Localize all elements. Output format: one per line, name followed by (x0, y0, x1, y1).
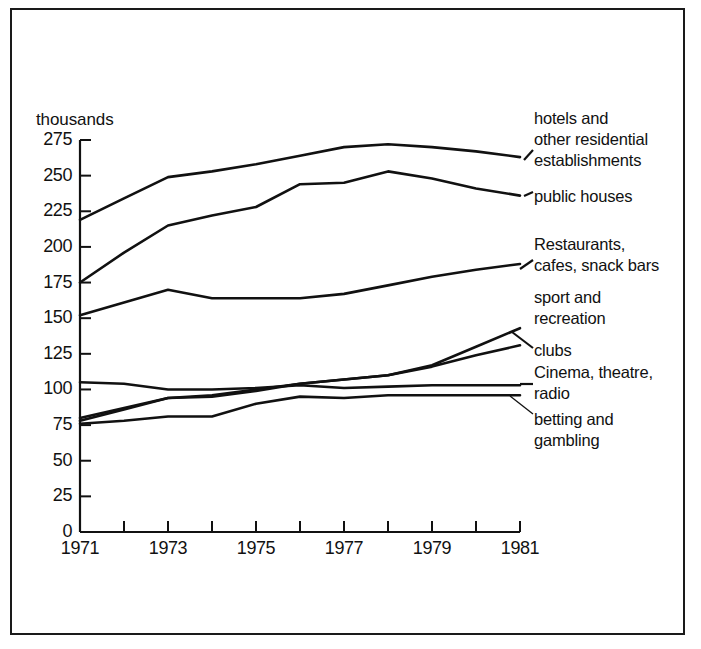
y-tick-label: 75 (24, 414, 72, 435)
chart-series-group (80, 144, 520, 423)
x-tick-label: 1979 (402, 538, 462, 559)
series-label-line: Cinema, theatre, (534, 362, 653, 383)
y-tick-label: 250 (24, 165, 72, 186)
series-line-2 (80, 264, 520, 315)
y-tick-label: 175 (24, 272, 72, 293)
chart-axes (80, 140, 520, 532)
series-label-line: other residential (534, 129, 648, 150)
series-line-0 (80, 144, 520, 220)
series-label-line: sport and (534, 287, 605, 308)
leader-line-betting (510, 396, 533, 414)
series-label-restaurants: Restaurants,cafes, snack bars (534, 234, 659, 276)
series-label-betting: betting andgambling (534, 409, 613, 451)
y-tick-label: 150 (24, 307, 72, 328)
series-label-hotels: hotels andother residentialestablishment… (534, 108, 648, 171)
x-tick-label: 1971 (50, 538, 110, 559)
series-label-line: Restaurants, (534, 234, 659, 255)
series-label-clubs: clubs (534, 340, 572, 361)
y-tick-label: 50 (24, 450, 72, 471)
x-tick-label: 1977 (314, 538, 374, 559)
x-tick-label: 1975 (226, 538, 286, 559)
series-label-line: gambling (534, 430, 613, 451)
series-label-public-houses: public houses (534, 186, 632, 207)
y-tick-label: 225 (24, 200, 72, 221)
x-tick-label: 1973 (138, 538, 198, 559)
x-tick-label: 1981 (490, 538, 550, 559)
leader-line-restaurants (520, 260, 533, 269)
series-label-line: clubs (534, 340, 572, 361)
y-tick-label: 125 (24, 343, 72, 364)
y-tick-label: 200 (24, 236, 72, 257)
leader-line-hotels (524, 150, 533, 160)
series-label-cinema: Cinema, theatre,radio (534, 362, 653, 404)
series-label-line: hotels and (534, 108, 648, 129)
figure-page: thousands 275250225200175150125100755025… (0, 0, 701, 649)
leader-line-public-houses (524, 192, 533, 196)
y-tick-label: 25 (24, 485, 72, 506)
series-label-sport: sport andrecreation (534, 287, 605, 329)
series-label-line: public houses (534, 186, 632, 207)
series-label-line: betting and (534, 409, 613, 430)
figure-frame: thousands 275250225200175150125100755025… (10, 8, 685, 635)
series-label-line: cafes, snack bars (534, 255, 659, 276)
series-label-line: establishments (534, 150, 648, 171)
series-line-6 (80, 395, 520, 424)
series-label-line: radio (534, 383, 653, 404)
series-label-line: recreation (534, 308, 605, 329)
label-leader-lines (510, 150, 533, 414)
y-tick-label: 275 (24, 129, 72, 150)
y-tick-label: 100 (24, 378, 72, 399)
